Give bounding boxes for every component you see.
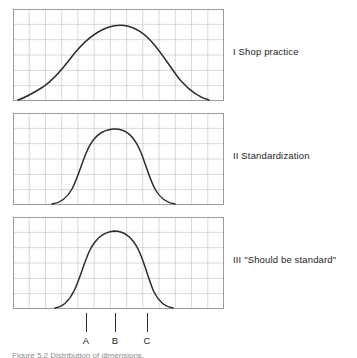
- panel-1-plot: [13, 9, 224, 101]
- figure-caption: Figure 5.2 Distribution of dimensions.: [12, 350, 272, 358]
- standardization-distribution-curve: [52, 129, 175, 204]
- tick-mark-b: [115, 313, 116, 332]
- panel-1-label: I Shop practice: [233, 46, 299, 58]
- panel-3-plot: [13, 217, 224, 309]
- distribution-panel-2: [13, 113, 224, 205]
- distribution-panel-3: [13, 217, 224, 309]
- panel-3-label: III "Should be standard": [233, 254, 336, 266]
- tick-mark-c: [147, 313, 148, 332]
- tick-label-a: A: [83, 335, 89, 346]
- panel-2-gridlines: [13, 113, 224, 205]
- panel-1-gridlines: [13, 9, 224, 101]
- should-be-standard-distribution-curve: [55, 231, 173, 308]
- tick-label-b: B: [112, 335, 118, 346]
- figure-container: I Shop practice: [0, 0, 357, 358]
- shop-practice-distribution-curve: [18, 25, 209, 100]
- tick-label-c: C: [144, 335, 151, 346]
- tick-mark-a: [86, 313, 87, 332]
- abc-tick-axis: A B C: [13, 309, 224, 355]
- panel-2-label: II Standardization: [233, 150, 310, 162]
- distribution-panel-1: [13, 9, 224, 101]
- panel-2-plot: [13, 113, 224, 205]
